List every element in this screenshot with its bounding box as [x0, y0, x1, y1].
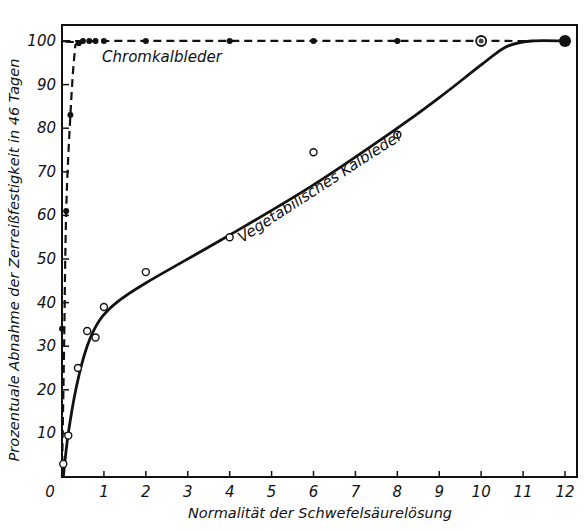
point-vegetabilisches-kalbleder: [74, 365, 81, 372]
point-chromkalbleder: [63, 208, 69, 214]
point-vegetabilisches-kalbleder: [142, 269, 149, 276]
point-chromkalbleder: [227, 38, 233, 44]
point-chromkalbleder: [59, 326, 65, 332]
x-tick-label: 3: [183, 483, 193, 501]
point-double-circle-inner: [479, 39, 484, 44]
x-tick-label: 4: [225, 483, 235, 501]
point-chromkalbleder: [143, 38, 149, 44]
point-vegetabilisches-kalbleder: [226, 234, 233, 241]
x-tick-label: 2: [141, 483, 151, 501]
point-vegetabilisches-kalbleder: [310, 149, 317, 156]
y-tick-label: 30: [37, 337, 56, 355]
point-chromkalbleder: [93, 38, 99, 44]
point-chromkalbleder: [311, 38, 317, 44]
x-tick-label: 5: [267, 483, 277, 501]
x-tick-label: 8: [393, 483, 403, 501]
chart: 0123456789101112 102030405060708090100 N…: [0, 0, 588, 531]
y-axis-label: Prozentuale Abnahme der Zerreißfestigkei…: [6, 59, 22, 462]
label-vegetabilisches-kalbleder: Vegetabilisches Kalbleder: [234, 126, 406, 246]
x-tick-label: 9: [434, 483, 444, 501]
curves: [61, 41, 565, 477]
x-tick-label: 12: [555, 483, 574, 501]
point-vegetabilisches-kalbleder: [84, 327, 91, 334]
y-tick-label: 90: [37, 76, 56, 94]
x-tick-label: 0: [45, 483, 55, 501]
curve-vegetabilisches-kalbleder: [63, 41, 565, 477]
x-tick-label: 6: [309, 483, 319, 501]
point-vegetabilisches-kalbleder: [100, 303, 107, 310]
point-chromkalbleder: [80, 38, 86, 44]
point-chromkalbleder: [67, 112, 73, 118]
x-tick-label: 11: [514, 483, 533, 501]
y-tick-label: 10: [37, 424, 56, 442]
y-tick-label: 60: [37, 206, 56, 224]
x-tick-label: 1: [99, 483, 109, 501]
y-tick-label: 80: [37, 119, 56, 137]
y-tick-label: 70: [37, 163, 56, 181]
curve-chromkalbleder: [61, 41, 565, 477]
point-large-filled: [559, 35, 571, 47]
x-tick-label: 7: [351, 483, 361, 501]
point-vegetabilisches-kalbleder: [60, 460, 67, 467]
y-tick-label: 100: [27, 32, 56, 50]
y-tick-label: 20: [37, 381, 56, 399]
x-tick-label: 10: [472, 483, 491, 501]
markers: [59, 35, 571, 467]
point-chromkalbleder: [101, 38, 107, 44]
y-tick-label: 50: [37, 250, 56, 268]
plot-frame: [62, 25, 577, 477]
x-axis-label: Normalität der Schwefelsäurelösung: [188, 505, 452, 521]
x-axis-ticks: 0123456789101112: [45, 471, 574, 501]
point-vegetabilisches-kalbleder: [65, 432, 72, 439]
label-chromkalbleder: Chromkalbleder: [102, 48, 223, 66]
y-tick-label: 40: [37, 294, 56, 312]
point-chromkalbleder: [394, 38, 400, 44]
point-vegetabilisches-kalbleder: [92, 334, 99, 341]
point-chromkalbleder: [86, 38, 92, 44]
